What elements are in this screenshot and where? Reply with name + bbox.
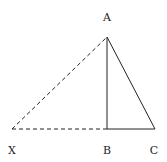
segment-ac <box>107 37 155 129</box>
label-c: C <box>150 144 158 157</box>
label-x: X <box>8 144 16 157</box>
triangle-diagram: A X B C <box>0 0 167 162</box>
label-b: B <box>103 144 111 157</box>
label-a: A <box>102 11 112 24</box>
segment-xa-dashed <box>12 37 107 129</box>
